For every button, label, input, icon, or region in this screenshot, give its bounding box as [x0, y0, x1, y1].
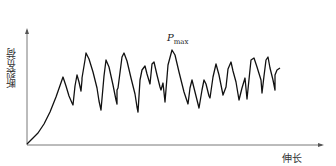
y-axis-label: 断裂负荷 [6, 48, 18, 88]
pmax-subscript: max [174, 38, 189, 46]
x-axis-label: 伸长 [282, 150, 302, 165]
pmax-label: P [167, 32, 174, 43]
x-axis-arrow-icon [318, 143, 324, 147]
pmax-annotation: Pmax [167, 32, 189, 46]
load-curve [27, 50, 280, 144]
chart-canvas [0, 0, 336, 166]
y-axis-arrow-icon [25, 28, 29, 34]
